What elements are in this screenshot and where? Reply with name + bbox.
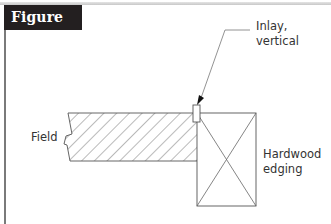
- edging-label-line2: edging: [263, 162, 321, 177]
- field-board: [60, 110, 200, 165]
- edging-label-line1: Hardwood: [263, 147, 321, 162]
- inlay-strip: [193, 105, 200, 122]
- inlay-label-line1: Inlay,: [256, 19, 299, 34]
- inlay-label-line2: vertical: [256, 34, 299, 49]
- field-label: Field: [31, 130, 58, 145]
- inlay-leader-arrow: [197, 30, 250, 105]
- inlay-label: Inlay, vertical: [256, 19, 299, 49]
- edging-label: Hardwood edging: [263, 147, 321, 177]
- hardwood-edging: [197, 113, 256, 206]
